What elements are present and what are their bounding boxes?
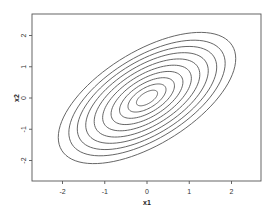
x-tick-label: 0 [145,188,149,195]
x-tick-label: 2 [230,188,234,195]
contour-line [120,78,175,119]
x-tick-label: -2 [59,188,65,195]
x-tick-label: -1 [102,188,108,195]
x-axis-label: x1 [143,199,151,206]
y-tick-label: 2 [20,33,27,37]
contour-lines [58,32,235,163]
y-axis-ticks: -2-1012 [20,33,32,163]
y-axis-label: x2 [13,94,20,102]
y-tick-label: -2 [20,157,27,163]
contour-line [111,71,183,124]
x-axis-ticks: -2-1012 [59,181,233,195]
contour-plot: -2-1012 -2-1012 x1 x2 [0,0,275,209]
contour-line [94,59,200,137]
contour-line [128,84,166,112]
y-tick-label: 0 [20,96,27,100]
y-tick-label: 1 [20,65,27,69]
x-tick-label: 1 [187,188,191,195]
contour-line [136,90,157,106]
y-tick-label: -1 [20,126,27,132]
